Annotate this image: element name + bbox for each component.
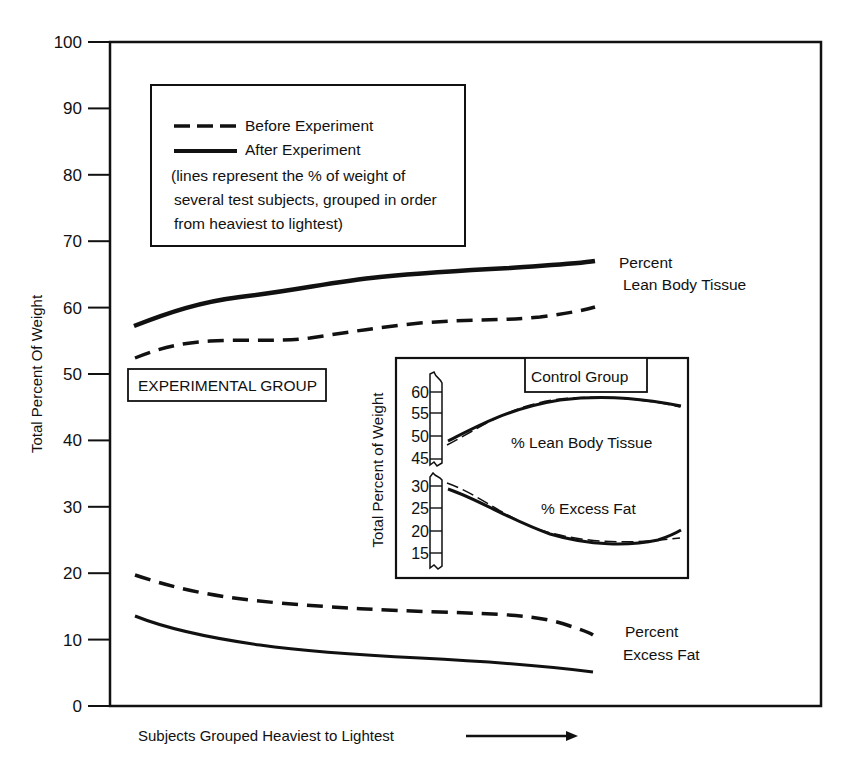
inset-title: Control Group: [531, 368, 628, 385]
inset-axis-break-lower: [430, 473, 442, 569]
y-axis: [88, 42, 110, 706]
y-tick-label: 80: [63, 166, 82, 185]
inset-y-tick-label: 45: [411, 450, 429, 467]
series-lean-after: [134, 261, 595, 326]
inset-y-tick-label: 55: [411, 405, 429, 422]
y-tick-label: 10: [63, 631, 82, 650]
chart-canvas: 100 90 80 70 60 50 40 30 20 10 0 Total P…: [0, 0, 847, 766]
inset-y-tick-label: 20: [411, 523, 429, 540]
y-tick-label: 60: [63, 299, 82, 318]
inset-label-fat: % Excess Fat: [541, 500, 636, 517]
arrow-right-icon: [466, 731, 578, 741]
inset-y-tick-label: 60: [411, 384, 429, 401]
annotation-lean-line2: Lean Body Tissue: [623, 276, 746, 293]
inset-chart: Control Group Total Percent of Weight 60…: [369, 358, 688, 578]
inset-axis-break-upper: [430, 372, 442, 466]
legend-label-before: Before Experiment: [245, 117, 374, 134]
x-axis-label: Subjects Grouped Heaviest to Lightest: [138, 727, 395, 744]
y-tick-label: 30: [63, 498, 82, 517]
y-tick-label: 90: [63, 99, 82, 118]
y-tick-labels: 100 90 80 70 60 50 40 30 20 10 0: [54, 33, 82, 716]
inset-y-axis-label: Total Percent of Weight: [369, 392, 386, 548]
y-axis-label: Total Percent Of Weight: [28, 294, 45, 453]
inset-y-tick-label: 15: [411, 545, 429, 562]
legend: Before Experiment After Experiment (line…: [151, 85, 465, 246]
y-tick-label: 50: [63, 365, 82, 384]
inset-y-tick-label: 25: [411, 500, 429, 517]
inset-y-tick-label: 50: [411, 428, 429, 445]
y-tick-label: 0: [73, 697, 82, 716]
annotation-fat-line2: Excess Fat: [623, 646, 700, 663]
inset-y-tick-label: 30: [411, 478, 429, 495]
series-fat-before: [135, 575, 593, 635]
group-label: EXPERIMENTAL GROUP: [138, 377, 317, 394]
series-fat-after: [135, 616, 593, 672]
series-lean-before: [135, 307, 595, 358]
annotation-fat-line1: Percent: [625, 623, 679, 640]
y-tick-label: 20: [63, 564, 82, 583]
y-tick-label: 40: [63, 431, 82, 450]
legend-note-line: from heaviest to lightest): [174, 215, 343, 232]
legend-note-line: (lines represent the % of weight of: [171, 167, 406, 184]
legend-label-after: After Experiment: [245, 141, 361, 158]
y-tick-label: 100: [54, 33, 82, 52]
y-tick-label: 70: [63, 232, 82, 251]
inset-label-lean: % Lean Body Tissue: [511, 434, 652, 451]
annotation-lean-line1: Percent: [619, 254, 673, 271]
legend-note-line: several test subjects, grouped in order: [174, 191, 437, 208]
